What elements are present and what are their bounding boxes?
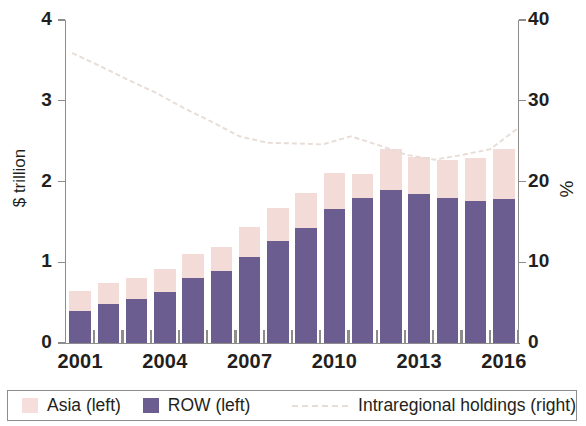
bar-2003 (126, 278, 147, 343)
x-tick-0 (93, 330, 95, 343)
y-axis-right-title: % (556, 174, 578, 204)
x-tick-label-2001: 2001 (40, 350, 120, 373)
bar-segment-asia-2012 (380, 149, 401, 190)
x-tick-label-2016: 2016 (464, 350, 544, 373)
x-tick-label-2004: 2004 (125, 350, 205, 373)
y-tick-right-40 (519, 19, 526, 20)
y-tick-label-right-30: 30 (528, 89, 572, 111)
legend-item-asia: Asia (left) (22, 391, 121, 420)
bar-segment-row-2010 (324, 209, 345, 343)
y-tick-right-30 (519, 100, 526, 101)
bar-segment-row-2011 (352, 198, 373, 343)
bar-segment-row-2006 (211, 271, 232, 343)
legend-label-row: ROW (left) (168, 395, 251, 416)
bar-segment-row-2012 (380, 190, 401, 343)
row-swatch-icon (143, 398, 159, 413)
bar-segment-asia-2002 (98, 283, 119, 304)
bar-segment-asia-2010 (324, 173, 345, 209)
bar-2012 (380, 149, 401, 343)
y-tick-left-4 (58, 19, 65, 20)
x-tick-6 (263, 330, 265, 343)
x-tick-12 (432, 330, 434, 343)
bar-2010 (324, 173, 345, 343)
legend-item-intraregional: Intraregional holdings (right) (292, 391, 576, 420)
chart-figure: 01234 010203040 $ trillion % 20012004200… (0, 0, 586, 426)
x-tick-5 (234, 330, 236, 343)
bar-segment-row-2004 (154, 292, 175, 343)
dashed-line-swatch-icon (292, 405, 348, 407)
x-tick-label-2013: 2013 (379, 350, 459, 373)
bar-2015 (465, 158, 486, 343)
bar-segment-asia-2006 (211, 247, 232, 271)
bar-segment-asia-2011 (352, 174, 373, 198)
y-tick-left-3 (58, 100, 65, 101)
bar-segment-row-2005 (182, 278, 203, 343)
bar-segment-asia-2016 (493, 149, 514, 199)
x-tick-3 (178, 330, 180, 343)
y-axis-left-line (65, 20, 66, 344)
bar-segment-row-2002 (98, 304, 119, 343)
bar-2009 (295, 193, 316, 343)
y-tick-label-left-4: 4 (12, 8, 52, 30)
bar-segment-row-2003 (126, 299, 147, 343)
y-tick-left-1 (58, 262, 65, 263)
bar-segment-row-2008 (267, 241, 288, 343)
bar-segment-asia-2005 (182, 254, 203, 278)
x-tick-10 (376, 330, 378, 343)
y-tick-left-0 (58, 342, 65, 343)
bar-segment-row-2014 (437, 198, 458, 343)
x-tick-15 (517, 330, 519, 343)
asia-swatch-icon (22, 398, 38, 413)
intraregional-holdings-path (72, 53, 518, 160)
x-tick-13 (460, 330, 462, 343)
x-tick-8 (319, 330, 321, 343)
y-tick-label-right-10: 10 (528, 250, 572, 272)
bar-segment-row-2001 (69, 311, 90, 343)
bar-segment-asia-2007 (239, 227, 260, 258)
y-tick-label-right-40: 40 (528, 8, 572, 30)
x-tick-7 (291, 330, 293, 343)
bar-segment-asia-2015 (465, 158, 486, 201)
bar-2005 (182, 254, 203, 343)
bar-2008 (267, 208, 288, 343)
bar-segment-asia-2013 (408, 157, 429, 193)
legend-label-intraregional: Intraregional holdings (right) (358, 395, 576, 416)
y-tick-right-20 (519, 181, 526, 182)
bar-segment-row-2007 (239, 257, 260, 343)
x-tick-11 (404, 330, 406, 343)
bar-2013 (408, 157, 429, 343)
x-tick-9 (347, 330, 349, 343)
bar-2001 (69, 291, 90, 343)
bar-2014 (437, 160, 458, 343)
legend-label-asia: Asia (left) (47, 395, 121, 416)
bar-segment-row-2016 (493, 199, 514, 343)
x-tick-2 (150, 330, 152, 343)
bar-segment-row-2013 (408, 194, 429, 343)
bar-segment-asia-2008 (267, 208, 288, 241)
bar-2016 (493, 149, 514, 343)
bar-2002 (98, 283, 119, 343)
bar-segment-row-2015 (465, 201, 486, 343)
x-tick-label-2007: 2007 (210, 350, 290, 373)
bar-segment-asia-2009 (295, 193, 316, 229)
bar-2006 (211, 247, 232, 343)
x-tick-4 (206, 330, 208, 343)
x-tick-14 (489, 330, 491, 343)
bar-segment-asia-2003 (126, 278, 147, 299)
y-tick-right-10 (519, 262, 526, 263)
bar-2007 (239, 227, 260, 343)
y-axis-left-title: $ trillion (10, 118, 30, 238)
bar-segment-asia-2001 (69, 291, 90, 311)
y-tick-left-2 (58, 181, 65, 182)
chart-legend: Asia (left) ROW (left) Intraregional hol… (7, 390, 577, 421)
y-tick-label-left-1: 1 (12, 250, 52, 272)
y-tick-label-left-3: 3 (12, 89, 52, 111)
x-tick-label-2010: 2010 (294, 350, 374, 373)
x-axis-line (65, 343, 520, 344)
bar-2011 (352, 174, 373, 343)
x-tick-1 (121, 330, 123, 343)
bar-segment-asia-2014 (437, 160, 458, 198)
legend-item-row: ROW (left) (143, 391, 251, 420)
bar-2004 (154, 269, 175, 343)
bar-segment-asia-2004 (154, 269, 175, 292)
